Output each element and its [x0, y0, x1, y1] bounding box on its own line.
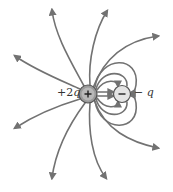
- positive-label-var: q: [73, 86, 80, 99]
- positive-charge: [79, 85, 97, 103]
- positive-charge-label: +2q: [57, 86, 80, 99]
- negative-label-var: q: [147, 86, 154, 99]
- negative-charge: [114, 86, 131, 103]
- negative-charge-label: − q: [134, 86, 154, 99]
- positive-label-sign: +2: [57, 86, 73, 99]
- negative-label-sign: −: [134, 86, 143, 99]
